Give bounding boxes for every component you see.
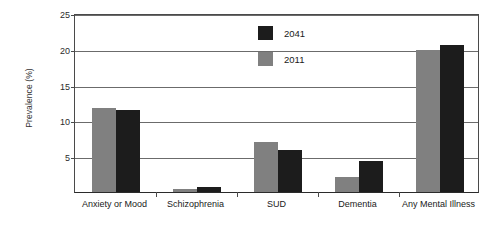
y-axis-tickmark-25 — [71, 15, 75, 16]
legend-item-2041: 2041 — [258, 26, 305, 40]
x-axis-tickmark-2 — [237, 192, 238, 197]
y-axis-tickmark-5 — [71, 158, 75, 159]
gridline-25 — [75, 15, 478, 16]
y-axis-tick-20: 20 — [60, 46, 70, 56]
y-axis-tick-25: 25 — [60, 10, 70, 20]
bar-schizophrenia-2041 — [197, 187, 221, 192]
x-axis-label-sud: SUD — [267, 199, 286, 209]
y-axis-tick-10: 10 — [60, 117, 70, 127]
plot-area: 510152025 — [74, 14, 479, 193]
legend-item-2011: 2011 — [258, 52, 304, 66]
x-axis-label-dementia: Dementia — [338, 199, 377, 209]
x-axis-label-schizophrenia: Schizophrenia — [167, 199, 224, 209]
legend-swatch-black-square — [258, 26, 273, 40]
bar-dementia-2041 — [359, 161, 383, 192]
bar-chart-figure: Prevalence (%) 510152025 2041 2011 Anxie… — [0, 0, 504, 228]
bar-anxiety-or-mood-2011 — [92, 108, 116, 192]
legend-label-2011: 2011 — [284, 54, 304, 65]
y-axis-label: Prevalence (%) — [24, 38, 34, 158]
legend-label-2041: 2041 — [284, 28, 305, 39]
bar-any-mental-illness-2011 — [416, 50, 440, 192]
bar-sud-2011 — [254, 142, 278, 192]
legend-swatch-gray-square — [258, 52, 273, 66]
bar-dementia-2011 — [335, 177, 359, 192]
y-axis-tick-5: 5 — [65, 153, 70, 163]
bar-anxiety-or-mood-2041 — [116, 110, 140, 192]
y-axis-tickmark-10 — [71, 122, 75, 123]
y-axis-tick-15: 15 — [60, 82, 70, 92]
x-axis-label-any-mental-illness: Any Mental Illness — [402, 199, 475, 209]
bar-sud-2041 — [278, 150, 302, 192]
x-axis-tickmark-4 — [399, 192, 400, 197]
y-axis-tickmark-15 — [71, 87, 75, 88]
x-axis-tickmark-3 — [318, 192, 319, 197]
y-axis-tickmark-20 — [71, 51, 75, 52]
bar-any-mental-illness-2041 — [440, 45, 464, 192]
bar-schizophrenia-2011 — [173, 189, 197, 192]
x-axis-tickmark-1 — [156, 192, 157, 197]
x-axis-label-anxiety-or-mood: Anxiety or Mood — [82, 199, 147, 209]
